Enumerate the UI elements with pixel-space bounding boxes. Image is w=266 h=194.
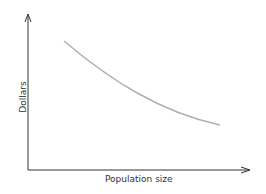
x-axis-label: Population size: [105, 174, 173, 184]
y-axis-label: Dollars: [18, 72, 28, 122]
chart-canvas: [0, 0, 266, 194]
cost-curve: [64, 41, 220, 125]
